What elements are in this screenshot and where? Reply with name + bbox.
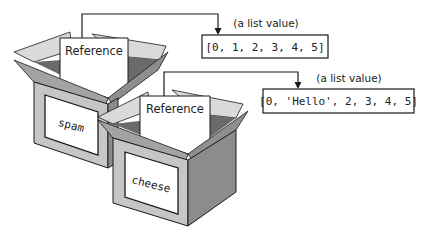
- list-value-text-2: [0, 'Hello', 2, 3, 4, 5]: [259, 95, 418, 108]
- variable-box-cheese: Reference cheese: [98, 90, 248, 226]
- list-value-1: (a list value) [0, 1, 2, 3, 4, 5]: [202, 17, 328, 58]
- reference-diagram: (a list value) [0, 1, 2, 3, 4, 5] (a lis…: [0, 0, 421, 236]
- arrowhead-icon: [295, 82, 302, 89]
- list-value-2: (a list value) [0, 'Hello', 2, 3, 4, 5]: [259, 72, 418, 113]
- list-value-text-1: [0, 1, 2, 3, 4, 5]: [205, 41, 324, 54]
- reference-card-label-cheese: Reference: [146, 102, 204, 116]
- list-caption-2: (a list value): [316, 72, 381, 84]
- arrowhead-icon: [215, 28, 222, 35]
- reference-card-label-spam: Reference: [65, 44, 123, 58]
- list-caption-1: (a list value): [233, 17, 298, 29]
